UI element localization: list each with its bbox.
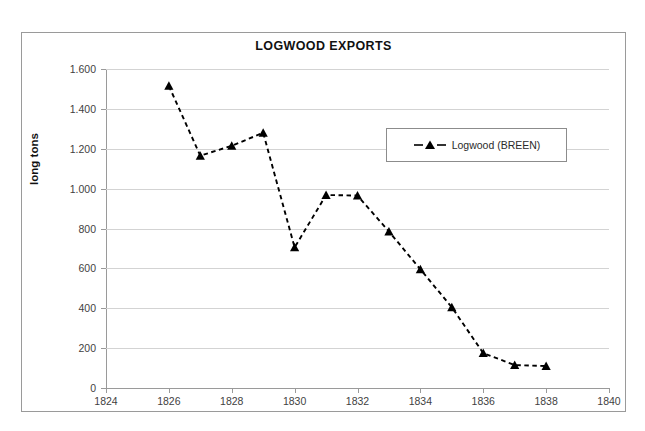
data-point-marker [321, 190, 330, 199]
x-tick-label: 1836 [472, 395, 495, 407]
y-tick-label: 800 [24, 223, 96, 235]
data-point-marker [196, 151, 205, 160]
y-tick-label: 0 [24, 382, 96, 394]
x-tick-label: 1828 [220, 395, 243, 407]
y-tick-label: 1.400 [24, 103, 96, 115]
x-tick-label: 1830 [283, 395, 306, 407]
y-tick-label: 1.200 [24, 143, 96, 155]
y-tick-label: 1.000 [24, 183, 96, 195]
y-tick-label: 400 [24, 302, 96, 314]
data-point-marker [353, 191, 362, 200]
x-tick-mark [609, 388, 610, 393]
y-tick-label: 200 [24, 342, 96, 354]
chart-legend: Logwood (BREEN) [386, 128, 567, 162]
x-tick-label: 1838 [534, 395, 557, 407]
chart-frame: LOGWOOD EXPORTS long tons 02004006008001… [21, 32, 626, 412]
chart-title: LOGWOOD EXPORTS [22, 39, 625, 53]
plot-area [106, 69, 609, 388]
y-tick-label: 600 [24, 262, 96, 274]
x-tick-label: 1826 [157, 395, 180, 407]
x-tick-label: 1834 [409, 395, 432, 407]
data-point-marker [290, 243, 299, 252]
y-tick-label: 1.600 [24, 63, 96, 75]
x-tick-label: 1824 [94, 395, 117, 407]
data-point-marker [164, 81, 173, 90]
data-point-marker [384, 227, 393, 236]
x-tick-label: 1840 [597, 395, 620, 407]
y-axis-title: long tons [28, 99, 40, 219]
series-logwood-breen [106, 69, 609, 388]
data-point-marker [416, 265, 425, 274]
x-tick-label: 1832 [346, 395, 369, 407]
gridline [106, 388, 609, 389]
legend-entry-label: Logwood (BREEN) [452, 139, 541, 151]
legend-marker-icon [413, 139, 447, 151]
data-point-marker [259, 128, 268, 137]
